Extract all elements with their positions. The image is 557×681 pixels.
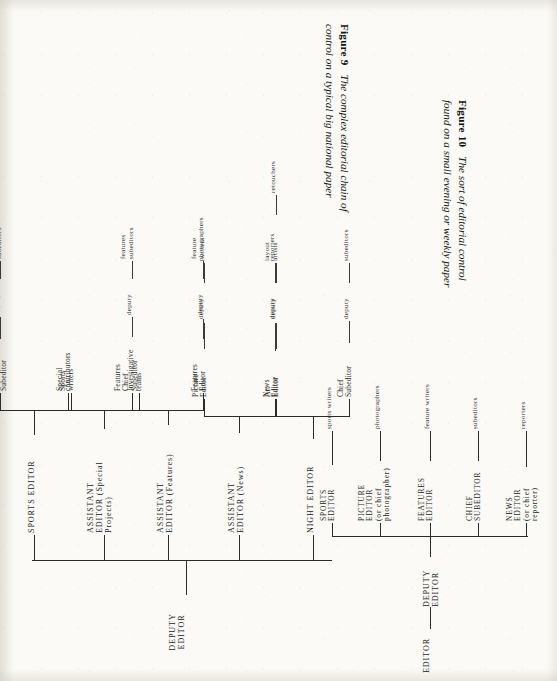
fig9-branch-connector-assistant-editor-features — [168, 535, 169, 561]
fig10-root-label: EDITOR — [422, 627, 431, 673]
fig10-leaf-line-picture-editor — [380, 431, 381, 461]
fig9-node-features-subeditors: features subeditors — [120, 203, 136, 259]
fig9-node-chief-subeditor: Chief Subeditor — [337, 343, 354, 397]
fig10-branch-connector-features-editor — [430, 523, 431, 537]
fig9-branch-connector-assistant-editor-special-projects — [104, 535, 105, 561]
fig9-node-sports-chief-subeditor-deputy: deputy — [0, 275, 2, 315]
fig10-branch-label-features-editor: FEATURES EDITOR — [418, 459, 435, 521]
fig9-node-features-editor: Features Editor — [191, 339, 208, 391]
fig9-main-spine — [32, 560, 332, 561]
fig9-node-sports-subeditors: sports subeditors — [0, 207, 4, 259]
fig10-leaf-subeditors: subeditors — [472, 373, 480, 429]
fig10-leaf-sports-writers: sports writers — [326, 369, 334, 429]
fig9-leaf-connector — [68, 393, 69, 411]
fig10-deputy-label: DEPUTY EDITOR — [422, 557, 440, 607]
fig9-node-sports-chief-subeditor: Sports Chief Subeditor — [0, 341, 8, 391]
fig10-branch-label-chief-subeditor: CHIEF SUBEDITOR — [466, 459, 483, 521]
fig9-chain-line — [275, 263, 276, 283]
fig9-chain-line — [203, 319, 204, 339]
fig9-node-reporters: reporters — [269, 205, 277, 261]
fig9-node-features-chief-subeditor-deputy: deputy — [126, 275, 134, 315]
figure-9-caption-block: Figure 9The complex editorial chain of c… — [296, 24, 352, 234]
fig10-root-stem — [430, 607, 431, 629]
figure-10-diagram: EDITOR DEPUTY EDITOR NEWS EDITOR (or chi… — [318, 397, 550, 673]
fig9-branch-connector-sports-editor — [34, 535, 35, 561]
fig9-branch-label-assistant-editor-features: ASSISTANT EDITOR (Features) — [156, 421, 174, 533]
fig10-branch-connector-chief-subeditor — [478, 523, 479, 537]
fig9-branch-connector-assistant-editor-news — [239, 535, 240, 561]
fig9-chain-line — [349, 263, 350, 283]
fig9-chain-line — [0, 317, 1, 339]
fig10-deputy-stem — [430, 537, 431, 557]
fig9-node-feature-writers: feature writers — [191, 213, 207, 259]
fig9-node-sports-writers: Sports writers — [59, 343, 76, 391]
fig9-node-retouchers: retouchers — [270, 137, 278, 193]
fig10-branch-connector-sports-editor — [332, 523, 333, 537]
fig9-node-features-editor-deputy: deputy — [197, 275, 205, 315]
fig9-chain-line — [275, 323, 276, 351]
fig9-branch-label-night-editor: NIGHT EDITOR — [306, 441, 315, 533]
fig9-branch-spine-sports-editor — [0, 410, 72, 411]
fig10-leaf-line-features-editor — [430, 431, 431, 461]
fig9-branch-label-assistant-editor-special-projects: ASSISTANT EDITOR (Special Projects) — [86, 429, 113, 533]
fig9-node-news-editor-deputy: deputy — [269, 279, 277, 319]
fig9-branch-stem-assistant-editor-features — [168, 411, 169, 425]
fig9-node-news-editor: News Editor — [263, 353, 280, 397]
fig10-leaf-feature-writers: feature writers — [424, 367, 432, 429]
fig9-leaf-connector — [275, 399, 276, 417]
fig10-branch-label-sports-editor: SPORTS EDITOR — [320, 461, 337, 521]
fig9-branch-stem-assistant-editor-news — [239, 417, 240, 433]
fig9-branch-label-sports-editor: SPORTS EDITOR — [27, 437, 36, 533]
fig9-chain-line — [203, 261, 204, 279]
fig9-branch-stem-assistant-editor-special-projects — [104, 411, 105, 429]
fig9-chain-line — [0, 261, 1, 279]
fig10-leaf-photographers: photographers — [374, 363, 382, 429]
fig9-branch-stem-sports-editor — [34, 411, 35, 435]
fig9-leaf-connector — [132, 393, 133, 411]
fig10-leaf-line-sports-editor — [332, 431, 333, 465]
fig9-branch-spine-assistant-editor-news — [204, 416, 276, 417]
fig9-branch-connector-night-editor — [313, 535, 314, 561]
figure-10-caption: Figure 10The sort of editorial control f… — [440, 100, 470, 306]
fig10-leaf-line-news-editor — [526, 431, 527, 467]
figure-9-number: Figure 9 — [339, 24, 351, 65]
figure-10-caption-block: Figure 10The sort of editorial control f… — [414, 100, 470, 310]
fig10-branch-connector-picture-editor — [380, 523, 381, 537]
fig9-root-stem — [186, 561, 187, 595]
fig9-root-label: DEPUTY EDITOR — [168, 597, 186, 667]
fig10-branch-label-picture-editor: PICTURE EDITOR (or chief photographer) — [358, 459, 391, 521]
fig9-node-investigative-teams: Investigative teams — [127, 329, 144, 391]
fig9-chain-line — [276, 323, 277, 349]
fig9-branch-label-assistant-editor-news: ASSISTANT EDITOR (News) — [227, 433, 245, 533]
fig9-chain-line — [349, 321, 350, 343]
figure-9-caption: Figure 9The complex editorial chain of c… — [322, 24, 352, 230]
fig9-leaf-connector — [203, 393, 204, 411]
fig9-leaf-connector — [71, 393, 72, 411]
fig9-branch-spine-assistant-editor-features — [132, 410, 204, 411]
fig9-leaf-connector — [139, 393, 140, 411]
fig10-branch-connector-news-editor — [526, 523, 527, 537]
fig10-branch-label-news-editor: NEWS EDITOR (or chief reporter) — [506, 461, 539, 521]
fig9-branch-spine-assistant-editor-special-projects — [68, 410, 140, 411]
fig9-leaf-connector — [0, 393, 1, 411]
figure-10-number: Figure 10 — [457, 100, 469, 147]
fig9-node-chief-subeditor-deputy: deputy — [343, 279, 351, 319]
fig10-leaf-reporters: reporters — [520, 373, 528, 429]
fig10-leaf-line-chief-subeditor — [478, 431, 479, 461]
fig9-branch-stem-night-editor — [313, 417, 314, 439]
fig9-chain-line — [132, 261, 133, 279]
